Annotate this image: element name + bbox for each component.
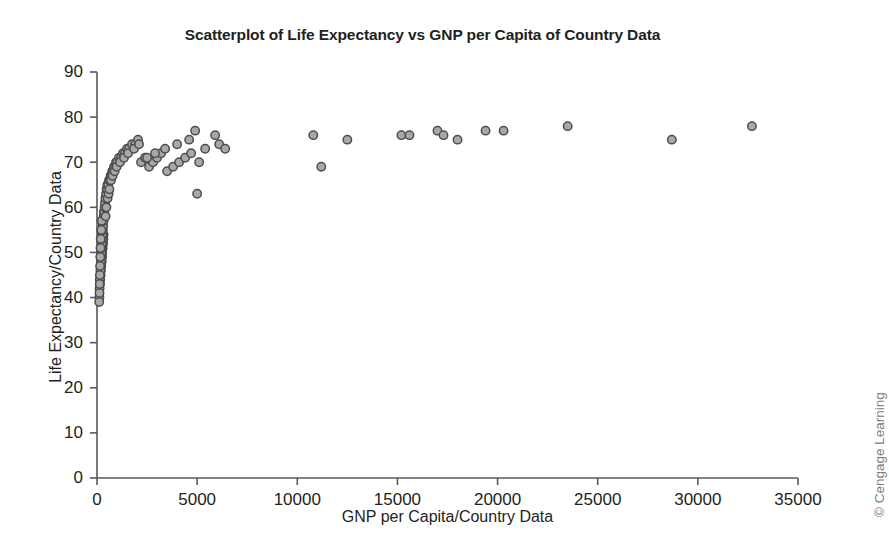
data-point xyxy=(187,149,195,157)
x-tick-label: 15000 xyxy=(374,490,421,509)
data-point xyxy=(221,144,229,152)
data-point xyxy=(668,135,676,143)
y-tick-label: 60 xyxy=(64,198,83,217)
data-point xyxy=(481,126,489,134)
y-tick-label: 20 xyxy=(64,378,83,397)
data-point xyxy=(748,122,756,130)
data-point xyxy=(201,144,209,152)
data-point xyxy=(191,126,199,134)
data-point xyxy=(439,131,447,139)
y-tick-label: 40 xyxy=(64,288,83,307)
y-axis: 0102030405060708090 xyxy=(64,62,97,487)
data-point xyxy=(96,262,104,270)
data-point xyxy=(96,280,104,288)
x-tick-label: 0 xyxy=(92,490,101,509)
data-point xyxy=(105,185,113,193)
data-point xyxy=(96,271,104,279)
data-point xyxy=(151,149,159,157)
scatterplot-figure: Scatterplot of Life Expectancy vs GNP pe… xyxy=(0,0,889,551)
data-point xyxy=(499,126,507,134)
data-point xyxy=(309,131,317,139)
data-point xyxy=(563,122,571,130)
x-tick-label: 30000 xyxy=(674,490,721,509)
x-tick-label: 25000 xyxy=(574,490,621,509)
data-point xyxy=(397,131,405,139)
data-points-layer xyxy=(95,122,756,306)
y-tick-label: 70 xyxy=(64,153,83,172)
y-tick-label: 0 xyxy=(74,468,83,487)
y-tick-label: 90 xyxy=(64,62,83,81)
y-tick-label: 80 xyxy=(64,108,83,127)
data-point xyxy=(97,226,105,234)
x-axis: 05000100001500020000250003000035000 xyxy=(92,478,821,509)
data-point xyxy=(95,298,103,306)
data-point xyxy=(135,140,143,148)
x-tick-label: 35000 xyxy=(774,490,821,509)
data-point xyxy=(173,140,181,148)
x-tick-label: 20000 xyxy=(474,490,521,509)
y-tick-label: 30 xyxy=(64,333,83,352)
x-tick-label: 5000 xyxy=(178,490,216,509)
data-point xyxy=(343,135,351,143)
plot-area: 0102030405060708090 05000100001500020000… xyxy=(0,0,889,551)
data-point xyxy=(161,144,169,152)
data-point xyxy=(193,190,201,198)
data-point xyxy=(97,235,105,243)
data-point xyxy=(211,131,219,139)
data-point xyxy=(95,289,103,297)
x-tick-label: 10000 xyxy=(274,490,321,509)
data-point xyxy=(195,158,203,166)
data-point xyxy=(453,135,461,143)
y-tick-label: 10 xyxy=(64,423,83,442)
data-point xyxy=(185,135,193,143)
data-point xyxy=(143,154,151,162)
data-point xyxy=(101,212,109,220)
data-point xyxy=(405,131,413,139)
data-point xyxy=(317,163,325,171)
data-point xyxy=(96,253,104,261)
data-point xyxy=(96,244,104,252)
y-tick-label: 50 xyxy=(64,243,83,262)
data-point xyxy=(102,203,110,211)
